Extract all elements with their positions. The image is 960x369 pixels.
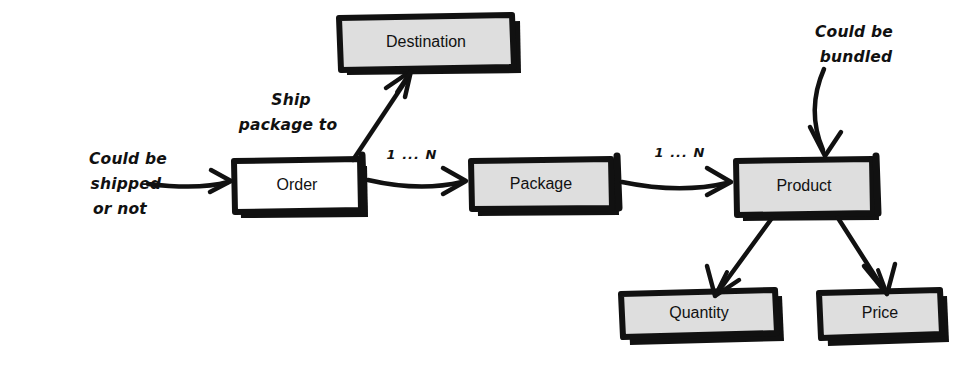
- order-label: Order: [277, 176, 319, 193]
- price-label: Price: [862, 304, 899, 321]
- annotation-shipped-line-1: Could be: [89, 150, 167, 168]
- node-destination[interactable]: Destination: [339, 15, 521, 75]
- edge-order-to-package-arrowhead: [443, 168, 466, 194]
- annotation-could-be-shipped: Could be shipped or not: [89, 150, 167, 218]
- node-product[interactable]: Product: [736, 156, 879, 221]
- order-right-tick: [362, 155, 364, 213]
- ship-package-to-line-1: Ship: [271, 91, 310, 109]
- node-price[interactable]: Price: [819, 290, 949, 346]
- package-label: Package: [510, 175, 572, 192]
- edge-product-to-quantity-line: [718, 218, 772, 292]
- cardinality-order-package: 1 ... N: [387, 147, 438, 162]
- annotation-shipped-line-2: shipped: [91, 175, 162, 193]
- node-quantity[interactable]: Quantity: [621, 290, 784, 345]
- diagram-canvas: Destination Order Package Product: [0, 0, 960, 369]
- annotation-bundled-line-1: Could be: [815, 23, 893, 41]
- quantity-label: Quantity: [669, 304, 729, 321]
- package-right-tick: [617, 156, 619, 208]
- node-package[interactable]: Package: [471, 156, 619, 216]
- edge-label-ship-package-to: Ship package to: [238, 91, 338, 134]
- edge-order-to-package-line: [368, 180, 462, 187]
- edge-package-to-product: [622, 168, 731, 195]
- edge-bundled-to-product-arrowhead: [810, 127, 841, 156]
- ship-package-to-line-2: package to: [238, 116, 338, 134]
- edge-package-to-product-arrowhead: [707, 168, 731, 195]
- edge-external-to-order-arrowhead: [210, 170, 231, 192]
- product-label: Product: [776, 177, 832, 194]
- edge-product-to-quantity: [707, 218, 772, 296]
- node-order[interactable]: Order: [234, 155, 368, 218]
- edge-bundled-to-product: [810, 69, 841, 156]
- annotation-bundled-line-2: bundled: [820, 48, 893, 66]
- edge-package-to-product-line: [622, 182, 727, 188]
- edge-product-to-price: [838, 218, 895, 294]
- product-right-tick: [876, 156, 878, 213]
- edge-order-to-package: [368, 168, 466, 194]
- diagram-svg: Destination Order Package Product: [0, 0, 960, 369]
- annotation-shipped-line-3: or not: [93, 200, 147, 218]
- destination-label: Destination: [386, 33, 466, 50]
- annotation-could-be-bundled: Could be bundled: [815, 23, 893, 66]
- cardinality-package-product: 1 ... N: [655, 145, 706, 160]
